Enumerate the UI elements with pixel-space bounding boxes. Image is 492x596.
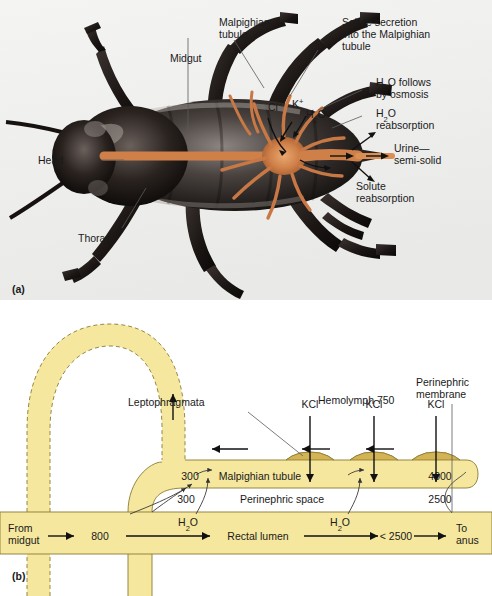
label-perinephric-membrane: Perinephric membrane (416, 376, 469, 400)
svg-text:To: To (456, 522, 467, 534)
value-rectum-outlet: < 2500 (380, 530, 413, 542)
svg-text:anus: anus (456, 534, 479, 546)
panel-b-tag: (b) (12, 570, 25, 582)
value-tubule-left: 300 (181, 470, 199, 482)
svg-text:reabsorption: reabsorption (376, 119, 435, 131)
label-malpighian-tubule-b: Malpighian tubule (219, 470, 301, 482)
panel-a-tag: (a) (12, 283, 25, 295)
value-perinephric-left: 300 (177, 493, 195, 505)
svg-text:Malpighian: Malpighian (219, 16, 270, 28)
head-highlight-2 (88, 180, 108, 196)
svg-text:reabsorption: reabsorption (356, 192, 415, 204)
label-perinephric-space: Perinephric space (240, 493, 324, 505)
svg-text:midgut: midgut (8, 534, 40, 546)
svg-text:From: From (8, 522, 33, 534)
label-rectal-lumen: Rectal lumen (227, 530, 288, 542)
label-leptophragmata: Leptophragmata (128, 396, 205, 408)
svg-text:Perinephric: Perinephric (416, 376, 469, 388)
svg-text:Solute: Solute (356, 180, 386, 192)
svg-text:Urine—: Urine— (394, 142, 430, 154)
svg-text:into the Malpighian: into the Malpighian (342, 28, 430, 40)
label-thorax: Thorax (78, 232, 111, 244)
head-highlight (84, 121, 106, 137)
svg-text:by osmosis: by osmosis (376, 88, 429, 100)
value-rectum-inlet: 800 (91, 530, 109, 542)
svg-text:tubule: tubule (219, 28, 248, 40)
leptophragmata-bumps (286, 452, 460, 460)
value-tubule-right: 4000 (428, 470, 452, 482)
svg-text:Solute secretion: Solute secretion (342, 16, 417, 28)
label-hemolymph: Hemolymph 750 (318, 394, 395, 406)
panel-b-cryptonephridial-diagram: KCl KCl KCl Leptophragmata Hemolymph 750… (0, 300, 492, 596)
value-perinephric-right: 2500 (428, 493, 452, 505)
svg-text:tubule: tubule (342, 40, 371, 52)
label-midgut: Midgut (170, 52, 202, 64)
panel-a-insect-photo: Cl− K+ H2O Midgut Malpighian tubule Solu… (0, 0, 492, 300)
kcl-label-1: KCl (302, 398, 319, 410)
label-head: Head (38, 154, 63, 166)
svg-text:semi-solid: semi-solid (394, 154, 441, 166)
svg-text:membrane: membrane (416, 388, 466, 400)
